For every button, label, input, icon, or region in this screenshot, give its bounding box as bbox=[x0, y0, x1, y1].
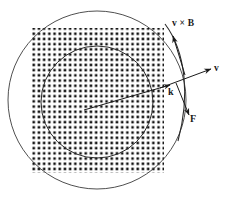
figure-canvas bbox=[0, 0, 234, 199]
physics-figure: v × B v k F bbox=[0, 0, 234, 199]
label-k: k bbox=[168, 87, 174, 97]
label-force: F bbox=[190, 114, 196, 124]
label-v-cross-b: v × B bbox=[172, 19, 194, 29]
v-cross-b-vector bbox=[173, 36, 185, 75]
label-velocity: v bbox=[214, 64, 219, 74]
force-vector-f bbox=[176, 83, 189, 115]
magnetic-field-dot-grid bbox=[32, 28, 164, 173]
